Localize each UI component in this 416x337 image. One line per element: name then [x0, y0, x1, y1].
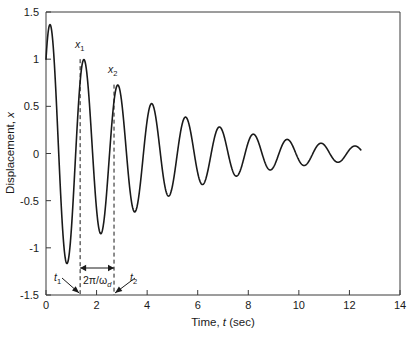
y-axis-title-prefix: Displacement, — [4, 118, 16, 194]
annotation-period-base: 2π/ω — [83, 274, 107, 286]
x-tick-label: 0 — [43, 299, 49, 311]
y-tick-label: 1.5 — [24, 6, 39, 18]
x-tick-label: 8 — [245, 299, 251, 311]
x-axis-title: Time, t (sec) — [191, 316, 255, 328]
y-tick-label: -1 — [29, 242, 39, 254]
y-tick-label: 0.5 — [24, 100, 39, 112]
x-tick-label: 10 — [293, 299, 305, 311]
x-tick-label: 4 — [144, 299, 150, 311]
x-tick-label: 6 — [195, 299, 201, 311]
x-tick-label: 2 — [94, 299, 100, 311]
annotation-t1-sub: 1 — [57, 277, 61, 286]
y-tick-label: -0.5 — [20, 195, 39, 207]
annotation-x1-sub: 1 — [80, 44, 84, 53]
x-tick-label: 12 — [343, 299, 355, 311]
x-axis-title-suffix: (sec) — [226, 316, 255, 328]
x-axis-title-prefix: Time, — [191, 316, 223, 328]
annotation-t2-sub: 2 — [133, 277, 137, 286]
y-tick-label: -1.5 — [20, 289, 39, 301]
damped-oscillation-chart: 02468101214 -1.5-1-0.500.511.5 x1 x2 — [0, 0, 416, 337]
x-tick-label: 14 — [394, 299, 406, 311]
y-tick-label: 0 — [33, 148, 39, 160]
y-tick-label: 1 — [33, 53, 39, 65]
annotation-x2-sub: 2 — [113, 69, 117, 78]
y-axis-title: Displacement, x — [4, 111, 16, 194]
chart-figure: 02468101214 -1.5-1-0.500.511.5 x1 x2 — [0, 0, 416, 337]
